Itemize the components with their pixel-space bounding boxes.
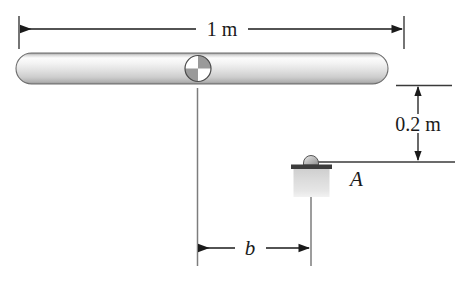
offset-b-label: b xyxy=(245,236,256,260)
rod-length-label: 1 m xyxy=(207,18,238,40)
dimension-rod-length: 1 m xyxy=(19,16,404,49)
block-top-plate xyxy=(291,165,332,170)
block-A: A xyxy=(291,156,363,267)
dimension-offset-b: b xyxy=(199,236,309,260)
dimension-vertical-offset: 0.2 m xyxy=(310,86,455,163)
block-body xyxy=(294,169,330,197)
block-knob xyxy=(304,156,319,166)
figure-canvas: 1 m 0.2 m A xyxy=(0,0,457,281)
pivot-quadrant-circle xyxy=(185,56,211,82)
vertical-offset-label: 0.2 m xyxy=(395,113,441,135)
mechanics-figure: 1 m 0.2 m A xyxy=(0,0,457,281)
block-label-A: A xyxy=(348,167,363,191)
